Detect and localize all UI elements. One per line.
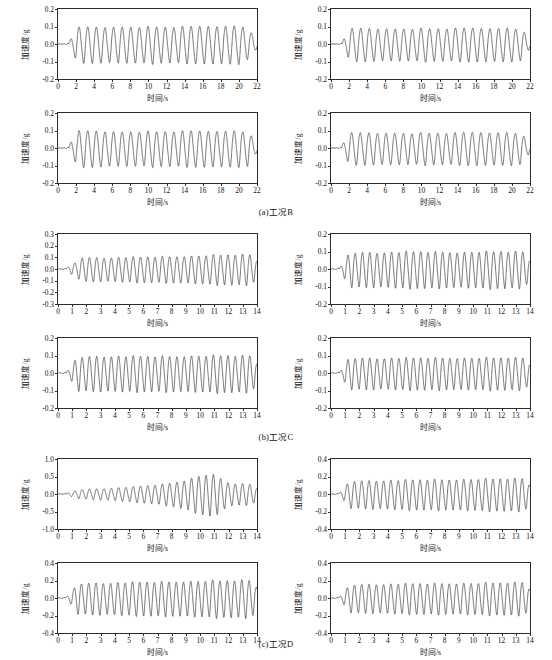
x-tick-mark xyxy=(186,633,187,636)
y-tick-label: 0.0 xyxy=(300,40,327,49)
x-tick-mark xyxy=(72,408,73,411)
x-tick-mark xyxy=(502,529,503,532)
x-tick-mark xyxy=(257,79,258,82)
x-tick-mark xyxy=(349,183,350,186)
waveform-line xyxy=(58,131,257,168)
x-tick-mark xyxy=(367,79,368,82)
x-tick-mark xyxy=(445,529,446,532)
y-tick-mark xyxy=(328,356,331,357)
x-tick-mark xyxy=(416,529,417,532)
x-tick-mark xyxy=(331,633,332,636)
y-axis-label: 加速度/g xyxy=(19,574,30,624)
x-tick-mark xyxy=(130,183,131,186)
x-tick-mark xyxy=(374,304,375,307)
y-tick-mark xyxy=(55,494,58,495)
y-tick-mark xyxy=(328,27,331,28)
x-tick-mark xyxy=(58,79,59,82)
x-tick-mark xyxy=(445,304,446,307)
y-tick-label: 0.0 xyxy=(27,265,54,274)
waveform-line xyxy=(331,582,530,616)
x-tick-mark xyxy=(403,183,404,186)
x-tick-mark xyxy=(388,408,389,411)
plot-area-a-upper xyxy=(57,8,258,80)
y-tick-mark xyxy=(55,459,58,460)
plot-area-c-base xyxy=(330,562,531,634)
x-tick-mark xyxy=(229,408,230,411)
y-tick-mark xyxy=(55,62,58,63)
x-axis-label: 时间/s xyxy=(57,317,258,328)
waveform-line xyxy=(331,478,530,512)
x-tick-mark xyxy=(86,408,87,411)
x-tick-mark xyxy=(416,633,417,636)
y-tick-mark xyxy=(328,252,331,253)
x-tick-mark xyxy=(487,633,488,636)
y-tick-mark xyxy=(328,581,331,582)
y-tick-label: 0.4 xyxy=(300,455,327,464)
waveform-line xyxy=(58,254,257,286)
y-tick-mark xyxy=(55,391,58,392)
waveform-line xyxy=(58,474,257,516)
plot-area-b-ground xyxy=(330,233,531,305)
group-caption-a: (a)工况B xyxy=(0,205,552,217)
x-tick-mark xyxy=(172,408,173,411)
y-tick-mark xyxy=(55,598,58,599)
y-tick-label: -0.2 xyxy=(27,611,54,620)
y-tick-label: 0.1 xyxy=(300,351,327,360)
x-tick-mark xyxy=(416,304,417,307)
x-tick-mark xyxy=(331,79,332,82)
x-tick-mark xyxy=(214,633,215,636)
x-tick-mark xyxy=(143,633,144,636)
y-tick-label: 0.3 xyxy=(27,230,54,239)
y-tick-mark xyxy=(55,44,58,45)
x-tick-mark xyxy=(431,529,432,532)
x-tick-label: 22 xyxy=(519,82,541,91)
x-tick-mark xyxy=(476,183,477,186)
x-tick-mark xyxy=(402,304,403,307)
y-tick-label: 0.1 xyxy=(27,126,54,135)
x-tick-mark xyxy=(186,304,187,307)
waveform-line xyxy=(331,132,530,165)
x-tick-mark xyxy=(172,304,173,307)
x-tick-mark xyxy=(502,633,503,636)
x-tick-mark xyxy=(431,304,432,307)
x-tick-mark xyxy=(416,408,417,411)
x-tick-mark xyxy=(331,304,332,307)
x-tick-mark xyxy=(86,529,87,532)
x-tick-mark xyxy=(374,633,375,636)
x-tick-mark xyxy=(530,79,531,82)
y-tick-label: 0.0 xyxy=(300,490,327,499)
y-tick-mark xyxy=(55,257,58,258)
plot-area-b-upper xyxy=(57,233,258,305)
x-tick-mark xyxy=(143,408,144,411)
y-tick-label: -0.1 xyxy=(300,57,327,66)
x-tick-mark xyxy=(487,408,488,411)
x-tick-mark xyxy=(402,408,403,411)
x-tick-mark xyxy=(158,408,159,411)
x-tick-mark xyxy=(473,408,474,411)
x-tick-mark xyxy=(473,633,474,636)
y-tick-mark xyxy=(55,292,58,293)
x-tick-mark xyxy=(129,529,130,532)
y-tick-label: 0.0 xyxy=(27,490,54,499)
x-tick-mark xyxy=(421,79,422,82)
x-tick-mark xyxy=(167,183,168,186)
x-tick-mark xyxy=(130,79,131,82)
y-tick-label: 0.5 xyxy=(27,472,54,481)
x-tick-mark xyxy=(200,529,201,532)
y-tick-label: -0.1 xyxy=(300,282,327,291)
x-tick-mark xyxy=(502,304,503,307)
x-tick-label: 14 xyxy=(246,532,268,541)
y-tick-label: -0.1 xyxy=(27,386,54,395)
x-tick-mark xyxy=(229,304,230,307)
acceleration-time-history-figure: 上部结构-0.2-0.10.00.10.2加速度/g02468101214161… xyxy=(0,0,552,660)
x-tick-mark xyxy=(58,408,59,411)
x-tick-mark xyxy=(385,183,386,186)
x-tick-mark xyxy=(494,183,495,186)
y-axis-label: 加速度/g xyxy=(292,349,303,399)
y-axis-label: 加速度/g xyxy=(292,20,303,70)
y-tick-label: 0.2 xyxy=(27,109,54,118)
x-tick-mark xyxy=(112,183,113,186)
x-tick-mark xyxy=(359,408,360,411)
y-tick-label: 0.2 xyxy=(300,472,327,481)
x-tick-mark xyxy=(58,183,59,186)
